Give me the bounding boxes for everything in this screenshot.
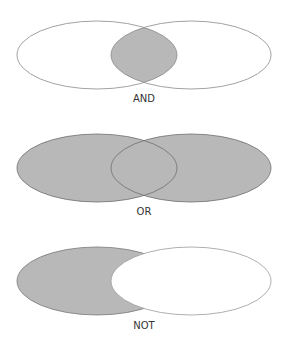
intersection-region bbox=[111, 21, 271, 89]
not-label: NOT bbox=[133, 320, 155, 331]
difference-region bbox=[17, 247, 177, 315]
and-diagram: AND bbox=[17, 21, 271, 104]
and-label: AND bbox=[133, 93, 155, 104]
venn-diagrams: AND OR NOT bbox=[0, 0, 287, 340]
or-diagram: OR bbox=[17, 134, 271, 217]
not-diagram: NOT bbox=[17, 247, 271, 331]
set-b-fill bbox=[111, 134, 271, 202]
or-label: OR bbox=[137, 206, 152, 217]
